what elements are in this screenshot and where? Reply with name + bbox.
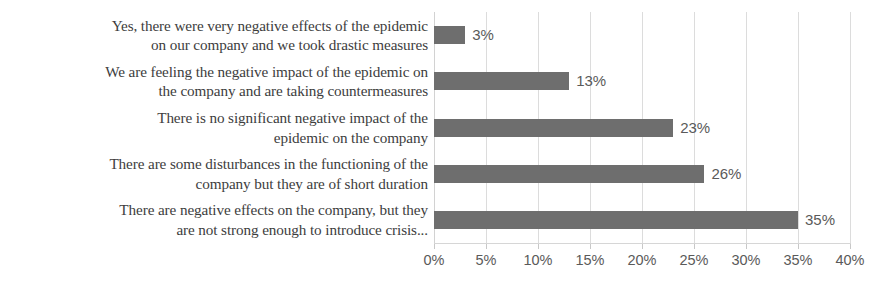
category-label-column: Yes, there were very negative effects of… [8,12,428,243]
category-label-3-line-1: company but they are of short duration [8,174,428,194]
bar-2[interactable] [434,119,673,137]
gridline-35pct [798,12,799,243]
x-tick-label-30pct: 30% [731,252,760,268]
category-label-4-line-0: There are negative effects on the compan… [8,200,428,220]
bar-value-label-3: 26% [711,165,741,183]
plot-area: 3%13%23%26%35% [434,12,850,243]
x-axis-baseline [434,243,851,244]
category-label-0: Yes, there were very negative effects of… [8,16,428,55]
category-label-2-line-1: epidemic on the company [8,128,428,148]
category-label-0-line-1: on our company and we took drastic measu… [8,35,428,55]
bar-0[interactable] [434,26,465,44]
gridline-40pct [850,12,851,243]
x-tick-label-40pct: 40% [835,252,864,268]
category-label-1-line-1: the company and are taking countermeasur… [8,81,428,101]
horizontal-bar-chart: Yes, there were very negative effects of… [0,0,881,289]
x-tick-label-25pct: 25% [679,252,708,268]
gridline-30pct [746,12,747,243]
category-label-3: There are some disturbances in the funct… [8,154,428,193]
bar-value-label-0: 3% [472,26,494,44]
x-tick-label-10pct: 10% [523,252,552,268]
bar-4[interactable] [434,211,798,229]
x-tick-label-0pct: 0% [424,252,445,268]
category-label-0-line-0: Yes, there were very negative effects of… [8,16,428,36]
bar-value-label-2: 23% [680,119,710,137]
bar-3[interactable] [434,165,704,183]
x-tick-label-20pct: 20% [627,252,656,268]
bar-value-label-1: 13% [576,72,606,90]
category-label-2-line-0: There is no significant negative impact … [8,108,428,128]
category-label-3-line-0: There are some disturbances in the funct… [8,154,428,174]
category-label-4-line-1: are not strong enough to introduce crisi… [8,220,428,240]
x-tick-label-15pct: 15% [575,252,604,268]
x-axis-tick-labels: 0%5%10%15%20%25%30%35%40% [434,252,851,276]
x-tick-label-35pct: 35% [783,252,812,268]
category-label-2: There is no significant negative impact … [8,108,428,147]
category-label-1: We are feeling the negative impact of th… [8,62,428,101]
x-tick-label-5pct: 5% [476,252,497,268]
category-label-4: There are negative effects on the compan… [8,200,428,239]
category-label-1-line-0: We are feeling the negative impact of th… [8,62,428,82]
bar-value-label-4: 35% [805,211,835,229]
bar-1[interactable] [434,72,569,90]
